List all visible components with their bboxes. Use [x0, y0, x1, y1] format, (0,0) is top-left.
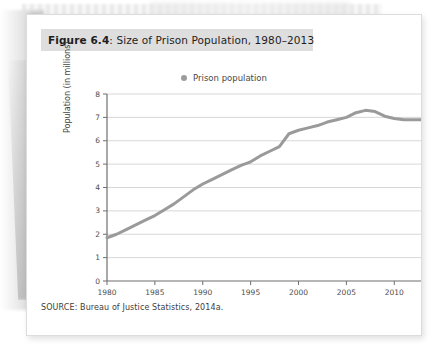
svg-text:1980: 1980 [97, 288, 116, 297]
x-axis: 1980198519901995200020052010 [97, 281, 421, 297]
plot-area: Population (in millions) 012345678 19801… [27, 15, 421, 335]
y-axis: 012345678 [95, 90, 107, 286]
line-chart-svg: 012345678 1980198519901995200020052010 [27, 15, 421, 335]
gridlines [107, 94, 421, 258]
svg-text:2010: 2010 [385, 288, 404, 297]
svg-text:3: 3 [95, 206, 100, 215]
svg-text:2005: 2005 [337, 288, 356, 297]
svg-text:1990: 1990 [193, 288, 212, 297]
svg-text:5: 5 [95, 160, 100, 169]
svg-text:1995: 1995 [241, 288, 260, 297]
svg-text:2: 2 [95, 230, 100, 239]
svg-text:6: 6 [95, 136, 100, 145]
svg-text:1985: 1985 [145, 288, 164, 297]
svg-text:8: 8 [95, 90, 100, 99]
svg-text:4: 4 [95, 183, 100, 192]
svg-text:2000: 2000 [289, 288, 308, 297]
svg-text:1: 1 [95, 253, 100, 262]
figure-source-note: SOURCE: Bureau of Justice Statistics, 20… [41, 303, 223, 312]
svg-text:0: 0 [95, 277, 100, 286]
figure-screenshot: Figure 6.4: Size of Prison Population, 1… [0, 0, 446, 358]
figure-card: Figure 6.4: Size of Prison Population, 1… [26, 14, 422, 336]
svg-text:7: 7 [95, 113, 100, 122]
data-series-prison-population [107, 110, 421, 237]
